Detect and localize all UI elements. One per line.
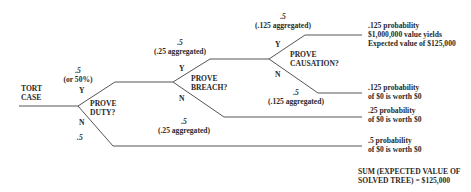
outcome-causation-no: .125 probability of $0 is worth $0	[368, 83, 422, 101]
causation-question: PROVE CAUSATION?	[290, 50, 339, 68]
causation-yes-probability: .5 (.125 aggregated)	[250, 12, 316, 30]
root-label: TORT CASE	[21, 84, 42, 102]
expected-value-summary: SUM (EXPECTED VALUE OF SOLVED TREE) = $1…	[358, 167, 460, 185]
outcome-duty-no: .5 probability of $0 is worth $0	[368, 136, 422, 154]
breach-question: PROVE BREACH?	[191, 74, 227, 92]
outcome-causation-yes: .125 probability $1,000,000 value yields…	[368, 21, 456, 48]
causation-yes-label: Y	[275, 40, 280, 49]
causation-no-label: N	[275, 70, 280, 79]
duty-no-branch	[78, 106, 362, 146]
breach-no-label: N	[179, 94, 184, 103]
duty-no-label: N	[79, 118, 84, 127]
breach-no-probability: .5 (.25 aggregated)	[154, 117, 214, 135]
breach-yes-label: Y	[179, 64, 184, 73]
duty-no-probability: .5	[77, 133, 83, 142]
duty-question: PROVE DUTY?	[90, 99, 117, 117]
breach-yes-probability: .5 (.25 aggregated)	[150, 38, 210, 56]
causation-no-probability: .5 (.125 aggregated)	[263, 88, 329, 106]
outcome-breach-no: .25 probability of $0 is worth $0	[368, 106, 422, 124]
duty-yes-label: Y	[79, 86, 84, 95]
duty-yes-probability: .5 (or 50%)	[58, 66, 98, 84]
